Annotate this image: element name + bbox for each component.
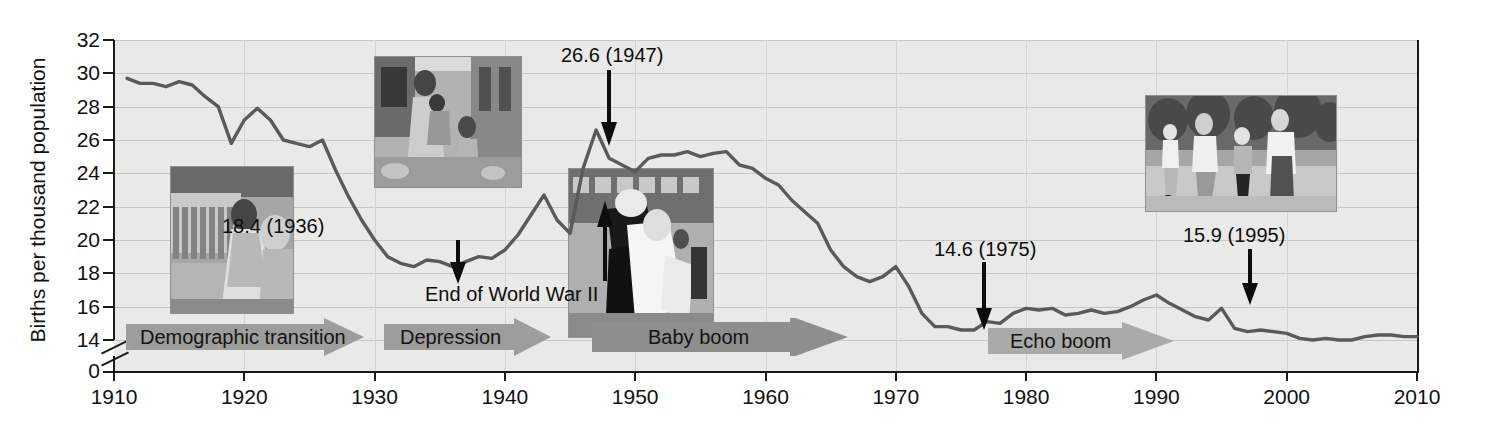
annotation-label-peak-1995: 15.9 (1995) <box>1183 224 1285 246</box>
annotation-label-ww2-end: End of World War II <box>425 283 598 305</box>
annotation-label-peak-1947: 26.6 (1947) <box>561 44 663 66</box>
annotation-arrow-trough-1936 <box>449 240 467 284</box>
birth-rate-chart-figure: Births per thousand population 141618202… <box>0 0 1489 437</box>
annotation-label-trough-1936: 18.4 (1936) <box>222 215 324 237</box>
annotation-arrow-trough-1975 <box>975 262 993 330</box>
annotation-arrow-peak-1947 <box>600 70 618 146</box>
annotation-arrow-ww2-end <box>596 201 614 281</box>
annotation-label-trough-1975: 14.6 (1975) <box>934 238 1036 260</box>
annotation-arrow-peak-1995 <box>1241 249 1259 305</box>
birth-rate-polyline <box>127 78 1417 340</box>
